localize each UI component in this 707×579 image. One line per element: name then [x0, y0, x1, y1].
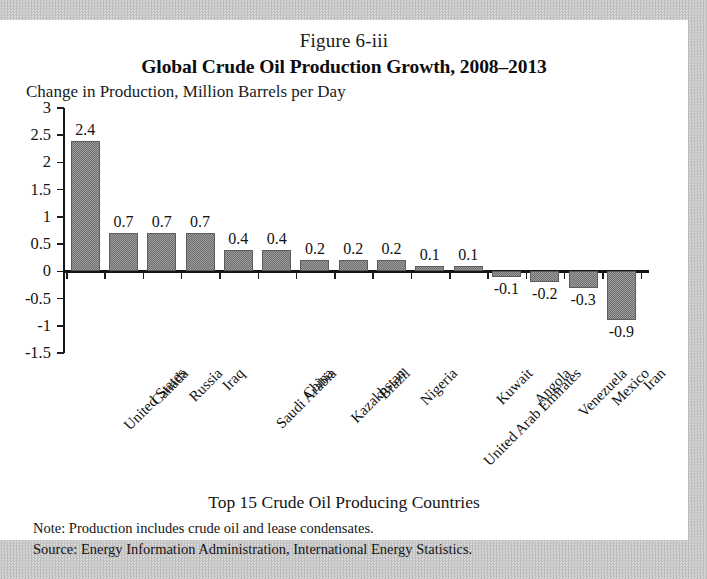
x-axis-title: Top 15 Crude Oil Producing Countries: [0, 492, 688, 513]
y-tick-label: 3: [9, 100, 51, 117]
x-tick-mark: [296, 272, 298, 279]
bar: [415, 266, 444, 271]
x-tick-mark: [258, 272, 260, 279]
x-tick-mark: [143, 272, 145, 279]
x-tick-mark: [104, 272, 106, 279]
bar: [109, 233, 138, 271]
x-tick-mark: [411, 272, 413, 279]
bar: [147, 233, 176, 271]
bar: [339, 260, 368, 271]
x-category-label: Iraq: [219, 365, 248, 394]
document-page: Figure 6-iii Global Crude Oil Production…: [0, 20, 688, 540]
bar: [262, 250, 291, 272]
bar: [377, 260, 406, 271]
bar-value-label: 0.7: [177, 214, 223, 230]
x-category-label: Nigeria: [417, 365, 461, 409]
source-text: Source: Energy Information Administratio…: [33, 541, 472, 558]
bar-value-label: -0.3: [560, 292, 606, 308]
y-tick-label: 2: [9, 154, 51, 171]
x-category-label: Russia: [185, 365, 225, 405]
bar: [224, 250, 253, 272]
bar: [300, 260, 329, 271]
bar-value-label: -0.9: [598, 324, 644, 340]
y-tick-label: 0: [9, 263, 51, 280]
y-axis-line: [63, 108, 65, 353]
x-tick-mark: [564, 272, 566, 279]
bar: [492, 271, 521, 276]
y-tick-mark: [57, 352, 64, 354]
bar: [71, 141, 100, 272]
bar-chart-plot: 32.521.510.50-0.5-1-1.5 2.40.70.70.70.40…: [0, 20, 688, 540]
x-tick-mark: [602, 272, 604, 279]
bar-value-label: 0.1: [445, 247, 491, 263]
x-tick-mark: [449, 272, 451, 279]
bar: [607, 271, 636, 320]
bar: [454, 266, 483, 271]
y-tick-mark: [57, 216, 64, 218]
note-text: Note: Production includes crude oil and …: [33, 520, 374, 537]
y-tick-mark: [57, 298, 64, 300]
x-tick-mark: [66, 272, 68, 279]
y-tick-mark: [57, 189, 64, 191]
y-tick-label: 1: [9, 209, 51, 226]
y-tick-mark: [57, 162, 64, 164]
x-category-label: Brazil: [376, 365, 414, 403]
y-tick-label: -0.5: [9, 291, 51, 308]
y-tick-mark: [57, 325, 64, 327]
y-tick-label: -1.5: [9, 345, 51, 362]
x-tick-mark: [372, 272, 374, 279]
x-tick-mark: [641, 272, 643, 279]
bar: [530, 271, 559, 282]
bar-value-label: 2.4: [62, 122, 108, 138]
y-tick-label: 1.5: [9, 182, 51, 199]
x-tick-mark: [219, 272, 221, 279]
x-tick-mark: [487, 272, 489, 279]
y-tick-mark: [57, 243, 64, 245]
x-tick-mark: [334, 272, 336, 279]
y-tick-label: -1: [9, 318, 51, 335]
x-category-label: Kuwait: [493, 365, 536, 408]
y-tick-label: 0.5: [9, 236, 51, 253]
bar: [186, 233, 215, 271]
x-tick-mark: [526, 272, 528, 279]
y-tick-mark: [57, 107, 64, 109]
y-tick-label: 2.5: [9, 127, 51, 144]
x-tick-mark: [181, 272, 183, 279]
y-tick-mark: [57, 271, 64, 273]
bar: [569, 271, 598, 287]
